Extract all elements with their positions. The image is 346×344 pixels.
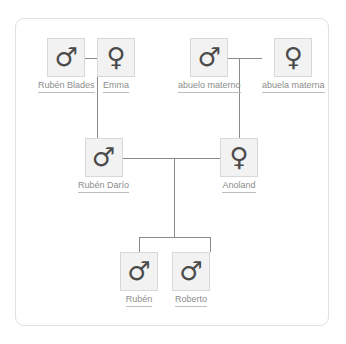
person-label: Rubén Darío	[78, 180, 129, 193]
gender-box[interactable]: ♂	[47, 38, 85, 77]
gender-box[interactable]: ♀	[220, 138, 258, 177]
male-gender-icon: ♂	[92, 144, 115, 170]
gender-box[interactable]: ♀	[97, 38, 135, 77]
person-label: Emma	[103, 80, 129, 93]
person-label: Roberto	[175, 294, 207, 307]
person-node-abuela-materna[interactable]: ♀ abuela materna	[262, 38, 325, 93]
gender-box[interactable]: ♂	[85, 138, 123, 177]
person-node-abuelo-materno[interactable]: ♂ abuelo materno	[178, 38, 241, 93]
person-node-anoland[interactable]: ♀ Anoland	[220, 138, 258, 193]
gender-box[interactable]: ♂	[120, 252, 158, 291]
person-node-ruben[interactable]: ♂ Rubén	[120, 252, 158, 307]
female-gender-icon: ♀	[284, 44, 303, 70]
person-label: Rubén	[126, 294, 153, 307]
male-gender-icon: ♂	[198, 44, 221, 70]
gender-box[interactable]: ♂	[190, 38, 228, 77]
person-label: abuela materna	[262, 80, 325, 93]
person-node-ruben-dario[interactable]: ♂ Rubén Darío	[78, 138, 129, 193]
person-label: Rubén Blades	[38, 80, 95, 93]
gender-box[interactable]: ♀	[274, 38, 312, 77]
female-gender-icon: ♀	[106, 44, 125, 70]
male-gender-icon: ♂	[127, 258, 150, 284]
gender-box[interactable]: ♂	[172, 252, 210, 291]
family-tree-diagram: ♂ Rubén Blades ♀ Emma ♂ abuelo materno ♀…	[0, 0, 346, 344]
person-label: abuelo materno	[178, 80, 241, 93]
female-gender-icon: ♀	[229, 144, 248, 170]
male-gender-icon: ♂	[55, 44, 78, 70]
person-node-roberto[interactable]: ♂ Roberto	[172, 252, 210, 307]
person-node-emma[interactable]: ♀ Emma	[97, 38, 135, 93]
male-gender-icon: ♂	[179, 258, 202, 284]
person-node-ruben-blades[interactable]: ♂ Rubén Blades	[38, 38, 95, 93]
person-label: Anoland	[222, 180, 255, 193]
